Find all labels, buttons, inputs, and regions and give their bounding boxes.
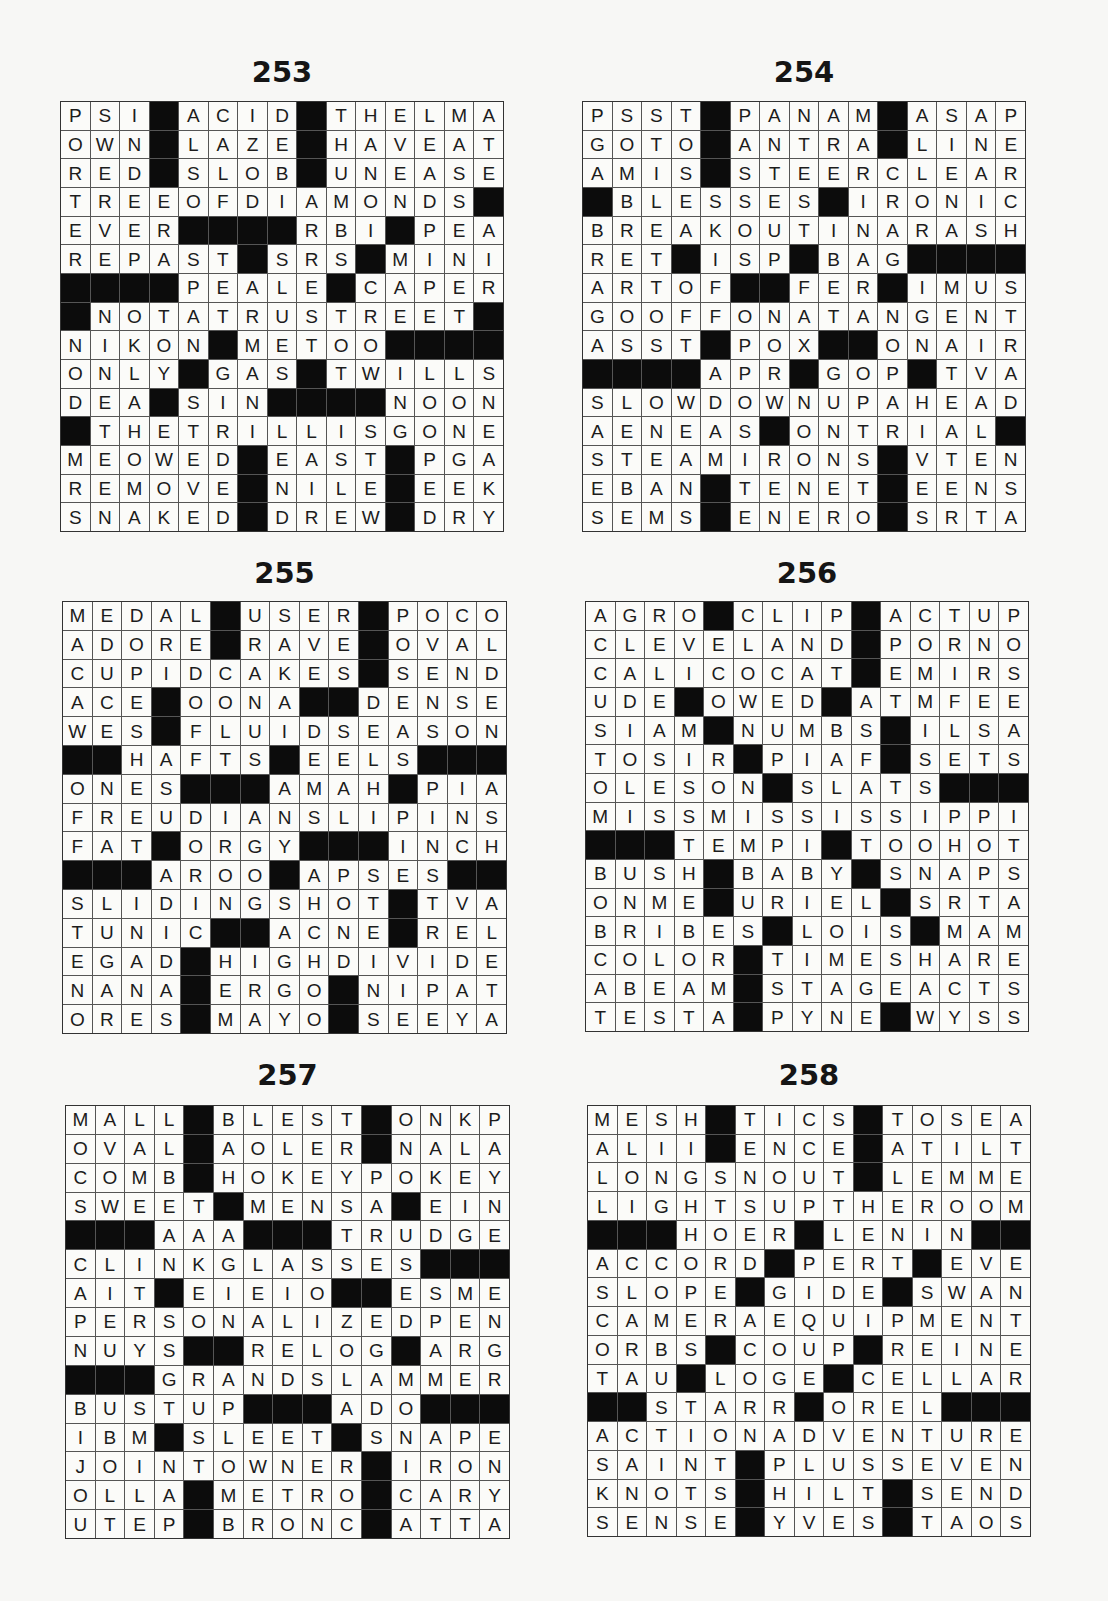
letter-cell: N <box>760 503 789 531</box>
letter-cell: O <box>181 688 210 716</box>
letter-cell: A <box>852 688 881 716</box>
letter-cell: E <box>386 102 415 130</box>
letter-cell: A <box>241 660 270 688</box>
black-square <box>181 775 210 803</box>
letter-cell: H <box>911 946 940 974</box>
letter-cell: I <box>451 1193 480 1221</box>
letter-cell: T <box>356 446 385 474</box>
letter-cell: I <box>359 948 388 976</box>
letter-cell: L <box>852 889 881 917</box>
letter-cell: E <box>392 1279 421 1307</box>
black-square <box>618 1393 647 1421</box>
letter-cell: S <box>706 1480 735 1508</box>
letter-cell: T <box>586 1003 615 1031</box>
letter-cell: E <box>179 503 208 531</box>
letter-cell: I <box>701 245 730 273</box>
letter-cell: D <box>415 503 444 531</box>
letter-cell: S <box>913 1480 942 1508</box>
black-square <box>93 861 122 889</box>
letter-cell: M <box>913 1307 942 1335</box>
letter-cell: S <box>824 1106 853 1134</box>
letter-cell: O <box>765 1336 794 1364</box>
letter-cell: E <box>967 446 996 474</box>
letter-cell: R <box>421 1452 450 1480</box>
letter-cell: D <box>300 717 329 745</box>
letter-cell: P <box>66 1308 95 1336</box>
letter-cell: H <box>940 831 969 859</box>
letter-cell: S <box>937 102 966 130</box>
black-square <box>150 102 179 130</box>
letter-cell: E <box>972 1451 1001 1479</box>
letter-cell: E <box>273 1337 302 1365</box>
letter-cell: C <box>300 919 329 947</box>
letter-cell: N <box>942 1221 971 1249</box>
black-square <box>359 660 388 688</box>
letter-cell: E <box>244 1424 273 1452</box>
letter-cell: G <box>765 1365 794 1393</box>
letter-cell: I <box>389 832 418 860</box>
letter-cell: O <box>586 774 615 802</box>
letter-cell: P <box>677 1278 706 1306</box>
letter-cell: I <box>908 417 937 445</box>
black-square <box>824 1365 853 1393</box>
letter-cell: S <box>706 1163 735 1191</box>
letter-cell: I <box>852 917 881 945</box>
black-square <box>303 1221 332 1249</box>
letter-cell: L <box>329 804 358 832</box>
letter-cell: D <box>415 188 444 216</box>
letter-cell: I <box>795 1480 824 1508</box>
letter-cell: E <box>268 331 297 359</box>
black-square <box>389 890 418 918</box>
letter-cell: I <box>359 804 388 832</box>
letter-cell: M <box>392 1366 421 1394</box>
letter-cell: L <box>793 917 822 945</box>
black-square <box>184 1106 213 1134</box>
letter-cell: A <box>150 245 179 273</box>
letter-cell: O <box>120 303 149 331</box>
letter-cell: T <box>359 890 388 918</box>
black-square <box>152 688 181 716</box>
letter-cell: E <box>645 774 674 802</box>
black-square <box>327 389 356 417</box>
letter-cell: O <box>418 602 447 630</box>
letter-cell: B <box>586 860 615 888</box>
letter-cell: D <box>181 804 210 832</box>
letter-cell: T <box>642 274 671 302</box>
letter-cell: R <box>819 503 848 531</box>
crossword-grid: PSIACIDTHELMAOWNLAZEHAVEATREDSLOBUNEASET… <box>60 101 504 532</box>
letter-cell: H <box>677 1106 706 1134</box>
black-square <box>332 1279 361 1307</box>
letter-cell: S <box>421 1279 450 1307</box>
letter-cell: A <box>765 1422 794 1450</box>
letter-cell: E <box>179 446 208 474</box>
letter-cell: G <box>616 602 645 630</box>
letter-cell: R <box>93 1005 122 1033</box>
letter-cell: E <box>613 503 642 531</box>
letter-cell: M <box>238 331 267 359</box>
letter-cell: E <box>881 659 910 687</box>
letter-cell: T <box>332 1221 361 1249</box>
letter-cell: O <box>150 331 179 359</box>
letter-cell: O <box>908 188 937 216</box>
letter-cell: S <box>967 217 996 245</box>
letter-cell: P <box>389 804 418 832</box>
letter-cell: I <box>793 745 822 773</box>
letter-cell: E <box>937 303 966 331</box>
letter-cell: S <box>736 1192 765 1220</box>
letter-cell: E <box>209 274 238 302</box>
letter-cell: S <box>179 389 208 417</box>
letter-cell: E <box>1001 1163 1030 1191</box>
black-square <box>647 1221 676 1249</box>
black-square <box>908 360 937 388</box>
letter-cell: S <box>586 717 615 745</box>
letter-cell: T <box>477 976 506 1004</box>
letter-cell: R <box>972 1422 1001 1450</box>
letter-cell: N <box>91 360 120 388</box>
letter-cell: U <box>795 1163 824 1191</box>
letter-cell: A <box>356 131 385 159</box>
letter-cell: S <box>645 745 674 773</box>
letter-cell: L <box>913 1393 942 1421</box>
letter-cell: O <box>451 1452 480 1480</box>
letter-cell: A <box>125 1135 154 1163</box>
letter-cell: T <box>332 1106 361 1134</box>
